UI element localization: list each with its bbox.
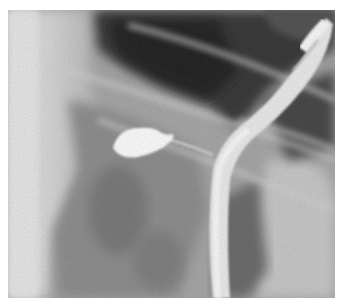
radiograph-graphic	[8, 10, 335, 298]
radiograph-image	[8, 10, 335, 298]
